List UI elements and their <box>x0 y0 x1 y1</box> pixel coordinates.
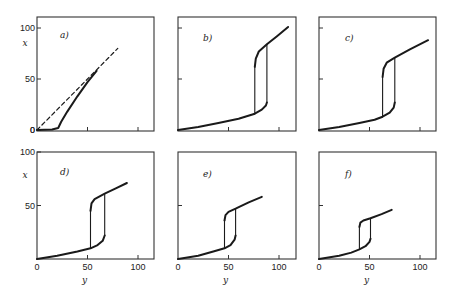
x-tick-label: 50 <box>223 262 233 272</box>
panel-d: 50100050100xyd) <box>20 147 154 285</box>
y-tick-label: 50 <box>25 201 35 211</box>
panel-a: 0501000xa) <box>20 17 154 135</box>
panel-label: f) <box>344 169 352 179</box>
x-tick-label: 0 <box>34 262 39 272</box>
y-tick-label: 100 <box>20 23 35 33</box>
series-lower-branch <box>178 236 236 260</box>
panel-c: c) <box>319 17 436 131</box>
panel-label: a) <box>60 30 69 40</box>
panel-e: 050100ye) <box>175 152 296 285</box>
series-lower-branch <box>319 239 371 259</box>
y-tick-label: 100 <box>20 147 35 157</box>
y-axis-label: x <box>22 38 27 48</box>
series-dashed <box>37 48 118 130</box>
panel-label: b) <box>203 33 213 43</box>
series-upper-branch <box>225 197 262 221</box>
x-tick-label: 100 <box>130 262 145 272</box>
series-upper-branch <box>91 183 127 211</box>
plot-frame <box>37 17 154 131</box>
panel-label: e) <box>203 169 212 179</box>
x-tick-label: 50 <box>82 262 92 272</box>
panel-label: d) <box>60 167 70 177</box>
series-upper-branch <box>255 27 288 67</box>
panel-f: 050100yf) <box>316 152 436 285</box>
panel-label: c) <box>345 33 354 43</box>
series-upper-branch <box>359 210 391 227</box>
y-axis-label: x <box>22 170 27 180</box>
plot-frame <box>319 152 436 259</box>
panel-b: b) <box>178 17 296 131</box>
plot-frame <box>37 152 154 259</box>
series-lower-branch <box>319 103 395 131</box>
x-tick-label: 50 <box>364 262 374 272</box>
plot-frame <box>319 17 436 131</box>
x-tick-label: 0 <box>316 262 321 272</box>
y-tick-label: 0 <box>30 125 35 135</box>
x-tick-label: 100 <box>271 262 286 272</box>
x-tick-label: 0 <box>175 262 180 272</box>
figure-grid: 0501000xa)b)c)50100050100xyd)050100ye)05… <box>0 0 457 285</box>
series-lower-branch <box>178 103 267 131</box>
x-axis-label: y <box>222 275 229 285</box>
plot-frame <box>178 152 296 259</box>
series-upper-branch <box>383 40 429 77</box>
x-tick-label: 100 <box>412 262 427 272</box>
x-axis-label: y <box>81 275 88 285</box>
x-axis-label: y <box>363 275 370 285</box>
y-tick-label: 50 <box>25 74 35 84</box>
series-lower-branch <box>37 236 105 260</box>
